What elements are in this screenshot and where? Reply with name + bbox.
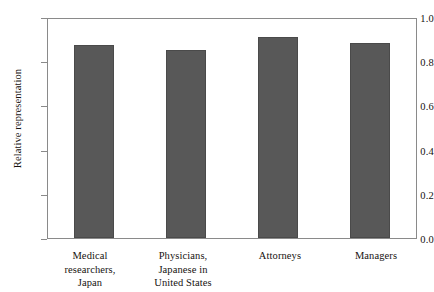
bar-attorneys xyxy=(258,37,298,238)
x-label-medical-researchers-japan: Medicalresearchers,Japan xyxy=(38,249,142,290)
plot-area xyxy=(47,18,417,239)
bar-medical-researchers-japan xyxy=(74,45,114,238)
x-label-managers: Managers xyxy=(324,249,428,263)
bar-chart-figure: Relative representation 0.0 0.2 0.4 0.6 … xyxy=(0,0,434,292)
y-axis-title: Relative representation xyxy=(12,39,23,199)
x-label-physicians-japanese-us: Physicians,Japanese inUnited States xyxy=(131,249,235,290)
bar-physicians-japanese-us xyxy=(166,50,206,238)
y-tick-mark-0 xyxy=(41,239,47,240)
bar-managers xyxy=(350,43,390,238)
x-label-attorneys: Attorneys xyxy=(228,249,332,263)
